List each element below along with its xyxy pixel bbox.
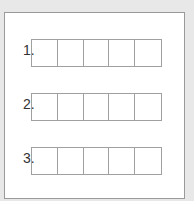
answer-cell[interactable] xyxy=(109,94,135,120)
answer-cell[interactable] xyxy=(135,40,161,66)
answer-cell[interactable] xyxy=(84,40,110,66)
answer-cell[interactable] xyxy=(135,94,161,120)
answer-cell[interactable] xyxy=(109,148,135,174)
answer-cell[interactable] xyxy=(58,94,84,120)
answer-boxes xyxy=(31,39,162,67)
answer-cell[interactable] xyxy=(32,94,58,120)
answer-boxes xyxy=(31,147,162,175)
answer-frame: 1. 2. 3. xyxy=(4,12,185,199)
answer-boxes xyxy=(31,93,162,121)
answer-cell[interactable] xyxy=(32,40,58,66)
answer-cell[interactable] xyxy=(32,148,58,174)
answer-cell[interactable] xyxy=(58,148,84,174)
answer-cell[interactable] xyxy=(58,40,84,66)
answer-cell[interactable] xyxy=(135,148,161,174)
answer-cell[interactable] xyxy=(84,148,110,174)
answer-cell[interactable] xyxy=(84,94,110,120)
answer-cell[interactable] xyxy=(109,40,135,66)
